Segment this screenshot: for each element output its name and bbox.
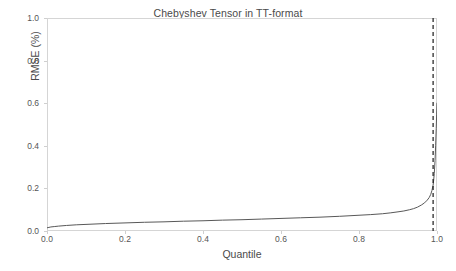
y-axis-label: RMSE (%) xyxy=(29,0,41,121)
y-tick-label: 0.0 xyxy=(27,226,39,236)
x-tick-label: 0.0 xyxy=(41,234,53,244)
x-tick-label: 0.6 xyxy=(275,234,287,244)
y-tick-mark xyxy=(44,188,47,189)
y-tick-label: 0.2 xyxy=(27,183,39,193)
y-tick-mark xyxy=(44,61,47,62)
plot-canvas xyxy=(47,18,437,231)
chart-figure: Chebyshev Tensor in TT-format 0.00.20.40… xyxy=(0,0,456,271)
x-tick-label: 0.4 xyxy=(197,234,209,244)
y-tick-mark xyxy=(44,146,47,147)
x-tick-label: 0.2 xyxy=(119,234,131,244)
y-tick-mark xyxy=(44,18,47,19)
plot-area xyxy=(47,18,437,231)
x-tick-label: 1.0 xyxy=(431,234,443,244)
x-tick-label: 0.8 xyxy=(353,234,365,244)
y-tick-mark xyxy=(44,103,47,104)
x-axis-label: Quantile xyxy=(47,248,437,260)
rmse-quantile-line xyxy=(47,103,437,228)
y-tick-label: 0.4 xyxy=(27,141,39,151)
y-tick-mark xyxy=(44,231,47,232)
